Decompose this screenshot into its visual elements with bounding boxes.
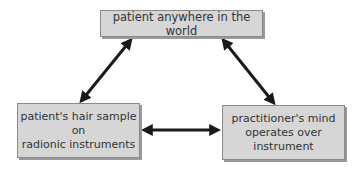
- node-label-line: patient's hair sample: [20, 110, 136, 124]
- node-label-line: radionic instruments: [22, 138, 136, 152]
- node-label-line: on: [72, 124, 86, 138]
- node-label-line: instrument: [253, 140, 313, 154]
- arrow-top-right: [224, 41, 273, 102]
- node-label-line: practitioner's mind: [231, 112, 335, 126]
- node-label-line: patient anywhere in the world: [101, 10, 262, 38]
- node-practitioner-mind: practitioner's mind operates over instru…: [222, 105, 345, 160]
- arrow-top-left: [82, 41, 130, 100]
- node-hair-sample: patient's hair sample on radionic instru…: [17, 103, 140, 158]
- node-patient-anywhere: patient anywhere in the world: [100, 10, 263, 37]
- node-label-line: operates over: [245, 126, 322, 140]
